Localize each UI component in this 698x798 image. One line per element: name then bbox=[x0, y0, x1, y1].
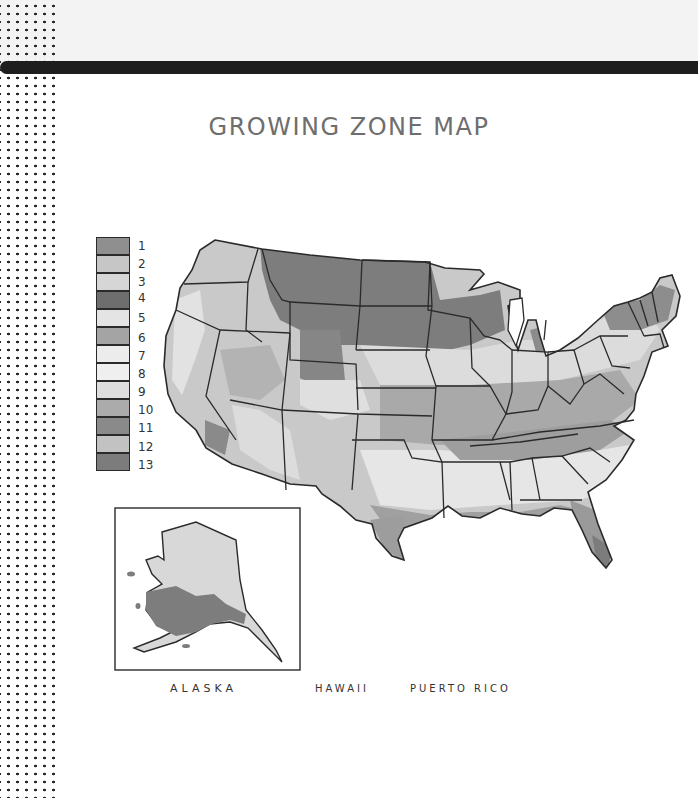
us-map bbox=[0, 0, 698, 798]
alaska-shape bbox=[127, 522, 282, 662]
puerto-rico-label: PUERTO RICO bbox=[410, 683, 511, 694]
hawaii-label: HAWAII bbox=[315, 683, 369, 694]
alaska-label: ALASKA bbox=[170, 682, 237, 695]
